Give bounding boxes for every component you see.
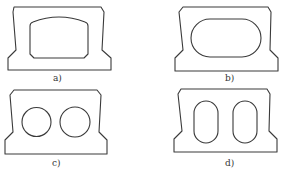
stadium-hole xyxy=(191,19,261,57)
slab-outline-b xyxy=(175,7,278,71)
slab-outline-d xyxy=(174,89,277,152)
panel-a: a) xyxy=(8,7,111,83)
slab-outline-c xyxy=(5,90,107,154)
panel-label-a: a) xyxy=(53,73,62,83)
panel-label-d: d) xyxy=(225,158,234,168)
panel-label-c: c) xyxy=(52,158,61,168)
panel-d: d) xyxy=(174,89,277,168)
panel-label-b: b) xyxy=(225,73,234,83)
arched-rectangular-hole xyxy=(30,17,88,58)
section-diagram: a) b) c) d) xyxy=(0,0,282,173)
slab-outline-a xyxy=(8,7,111,70)
slot-hole-left xyxy=(194,101,218,143)
circular-hole-right xyxy=(60,107,90,137)
slot-hole-right xyxy=(233,101,257,143)
circular-hole-left xyxy=(22,108,51,137)
panel-c: c) xyxy=(5,90,107,168)
panel-b: b) xyxy=(175,7,278,83)
